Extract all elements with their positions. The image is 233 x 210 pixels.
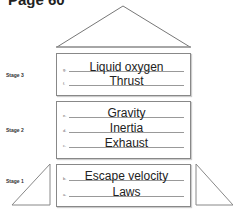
answer-row-d: d. Inertia — [63, 122, 184, 134]
answer-text: Escape velocity — [69, 170, 184, 182]
nose-cone-triangle — [57, 6, 190, 47]
left-fin-triangle — [12, 164, 50, 205]
answer-row-f: f. Thrust — [63, 75, 184, 87]
answer-text: Exhaust — [69, 137, 184, 149]
right-fin-triangle — [196, 164, 233, 205]
row-letter: e. — [63, 113, 66, 118]
stage-2-label: Stage 2 — [6, 127, 24, 133]
row-letter: g. — [63, 67, 66, 72]
row-letter: f. — [63, 81, 65, 86]
stage-3-box: g. Liquid oxygen f. Thrust — [56, 53, 191, 96]
row-letter: b. — [63, 176, 66, 181]
stage-1-label: Stage 1 — [6, 178, 24, 184]
row-letter: a. — [63, 192, 66, 197]
answer-row-e: e. Gravity — [63, 107, 184, 119]
answer-text: Laws — [69, 186, 184, 198]
row-letter: c. — [63, 143, 66, 148]
answer-text: Inertia — [69, 122, 184, 134]
row-letter: d. — [63, 128, 66, 133]
answer-text: Gravity — [69, 107, 184, 119]
answer-row-g: g. Liquid oxygen — [63, 61, 184, 73]
stage-3-label: Stage 3 — [6, 72, 24, 78]
answer-row-c: c. Exhaust — [63, 137, 184, 149]
answer-row-a: a. Laws — [63, 186, 184, 198]
stage-2-box: e. Gravity d. Inertia c. Exhaust — [56, 101, 191, 159]
stage-1-box: b. Escape velocity a. Laws — [56, 164, 191, 207]
answer-text: Liquid oxygen — [69, 61, 184, 73]
answer-text: Thrust — [69, 75, 184, 87]
answer-row-b: b. Escape velocity — [63, 170, 184, 182]
